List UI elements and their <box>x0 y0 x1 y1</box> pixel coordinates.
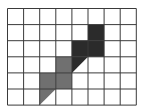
grid-lines <box>8 9 137 106</box>
shaded-cell-medium <box>56 57 72 73</box>
shaded-grid-diagram <box>7 8 138 107</box>
shaded-cell-dark <box>88 41 104 57</box>
shaded-cell-medium <box>40 73 56 89</box>
shaded-cell-dark <box>72 57 88 73</box>
shaded-cell-medium <box>40 89 56 105</box>
shaded-cell-dark <box>72 41 88 57</box>
shaded-cell-medium <box>56 73 72 89</box>
shaded-cell-dark <box>88 25 104 41</box>
grid-canvas <box>7 8 138 107</box>
